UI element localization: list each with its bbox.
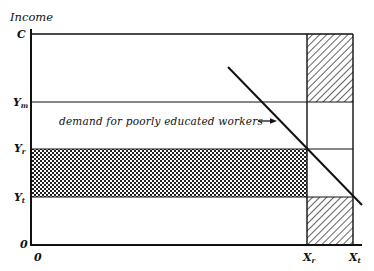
x-label-Xr: Xr	[303, 252, 315, 264]
y-label-zero: 0	[20, 239, 28, 251]
y-label-Yr: Yr	[14, 143, 26, 155]
arrowhead-icon	[270, 118, 277, 123]
dotted-band-region	[32, 149, 307, 197]
diagram-canvas	[0, 0, 374, 271]
hatched-top-region	[307, 34, 353, 102]
y-axis-title: Income	[10, 12, 53, 24]
hatched-bottom-region	[307, 197, 353, 245]
x-label-zero: 0	[34, 252, 42, 264]
demand-annotation: demand for poorly educated workers	[59, 115, 263, 127]
y-label-Yt: Yt	[14, 192, 25, 204]
x-label-Xt: Xt	[349, 252, 361, 264]
y-label-Ym: Ym	[13, 97, 28, 109]
y-label-C: C	[17, 29, 26, 41]
